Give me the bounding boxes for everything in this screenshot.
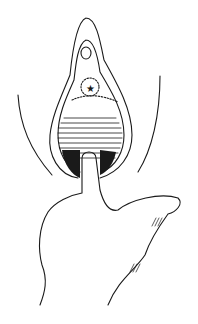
star-marker: ★ [86, 83, 95, 94]
dark-area-left [62, 150, 80, 178]
left-contour [18, 95, 52, 175]
caption [0, 308, 198, 320]
right-contour [138, 76, 160, 172]
medical-illustration: ★ [0, 0, 198, 324]
dotted-arc [72, 96, 118, 102]
knuckle-hatching [130, 218, 162, 272]
small-oval [81, 47, 91, 59]
hand-outline [40, 152, 181, 305]
